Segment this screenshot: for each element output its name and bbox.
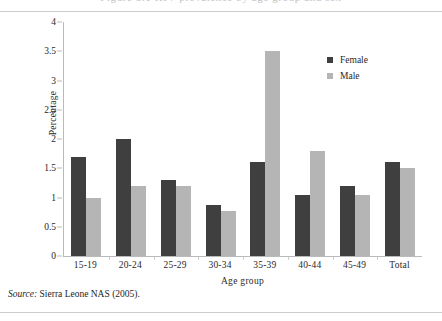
bar-female <box>295 195 310 256</box>
y-tick-mark <box>57 51 62 52</box>
bar-male <box>221 211 236 256</box>
y-tick-mark <box>57 80 62 81</box>
bar-male <box>310 151 325 256</box>
y-tick-label: 3 <box>30 76 56 86</box>
source-text: Sierra Leone NAS (2005). <box>37 289 140 299</box>
x-tick-label: Total <box>377 260 422 270</box>
x-axis-label: Age group <box>63 276 422 286</box>
bar-group <box>64 22 109 256</box>
y-tick-label: 2.5 <box>30 105 56 115</box>
x-axis-tick-labels: 15-1920-2425-2930-3435-3940-4445-49Total <box>63 260 422 270</box>
y-tick-label: 0 <box>30 251 56 261</box>
x-axis-line <box>63 256 422 257</box>
legend-label-male: Male <box>340 71 360 81</box>
bar-chart: Percentage 43.532.521.510.50 15-1920-242… <box>0 12 442 287</box>
y-tick-mark <box>57 109 62 110</box>
y-tick-label: 1 <box>30 193 56 203</box>
y-tick-label: 2 <box>30 134 56 144</box>
y-tick-label: 3.5 <box>30 46 56 56</box>
bar-male <box>131 186 146 256</box>
bar-male <box>86 198 101 257</box>
legend: Female Male <box>327 55 368 87</box>
divider-bottom <box>0 312 442 313</box>
x-tick-label: 35-39 <box>243 260 288 270</box>
bar-female <box>206 205 221 256</box>
plot-area <box>63 22 422 256</box>
bar-female <box>71 157 86 256</box>
legend-item-female: Female <box>327 55 368 65</box>
legend-item-male: Male <box>327 71 368 81</box>
legend-label-female: Female <box>340 55 368 65</box>
clipped-caption: Figure 5.1 HIV prevalence by age group a… <box>0 0 442 3</box>
bar-group <box>154 22 199 256</box>
legend-swatch-female-icon <box>327 57 333 63</box>
y-tick-mark <box>57 197 62 198</box>
y-tick-mark <box>57 168 62 169</box>
x-tick-label: 45-49 <box>332 260 377 270</box>
bar-male <box>176 186 191 256</box>
y-tick-mark <box>57 22 62 23</box>
x-tick-label: 40-44 <box>287 260 332 270</box>
bar-female <box>161 180 176 256</box>
bar-group <box>198 22 243 256</box>
bar-male <box>400 168 415 256</box>
bar-male <box>355 195 370 256</box>
y-tick-mark <box>57 256 62 257</box>
source-prefix: Source: <box>8 289 37 299</box>
source-note: Source: Sierra Leone NAS (2005). <box>8 289 140 299</box>
bar-female <box>340 186 355 256</box>
bar-male <box>265 51 280 256</box>
x-tick-label: 30-34 <box>198 260 243 270</box>
y-tick-mark <box>57 139 62 140</box>
x-tick-label: 20-24 <box>108 260 153 270</box>
bar-female <box>250 162 265 256</box>
bar-group <box>288 22 333 256</box>
y-tick-label: 0.5 <box>30 222 56 232</box>
bar-group <box>109 22 154 256</box>
x-tick-label: 25-29 <box>153 260 198 270</box>
bar-group <box>377 22 422 256</box>
y-axis-tick-labels: 43.532.521.510.50 <box>30 12 56 287</box>
legend-swatch-male-icon <box>327 73 333 79</box>
y-tick-mark <box>57 226 62 227</box>
bar-female <box>385 162 400 256</box>
y-tick-label: 1.5 <box>30 163 56 173</box>
bar-groups <box>64 22 422 256</box>
y-tick-label: 4 <box>30 17 56 27</box>
bar-group <box>243 22 288 256</box>
x-tick-label: 15-19 <box>63 260 108 270</box>
bar-female <box>116 139 131 256</box>
